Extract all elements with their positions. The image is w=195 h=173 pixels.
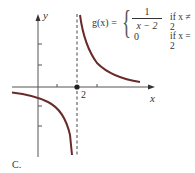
caption: C. xyxy=(12,159,21,170)
y-axis-label: y xyxy=(43,9,48,21)
condition-2: if x = 2 xyxy=(170,31,195,51)
function-name: g(x) = xyxy=(92,17,117,28)
denominator: x − 2 xyxy=(132,20,162,31)
point-2-0 xyxy=(74,84,79,89)
x-tick-label-2: 2 xyxy=(81,89,86,100)
brace-icon: { xyxy=(122,5,131,39)
numerator: 1 xyxy=(132,6,162,17)
x-axis-arrow-icon xyxy=(148,85,155,90)
fraction: 1 x − 2 xyxy=(132,6,162,31)
left-branch-curve xyxy=(12,93,72,156)
y-axis-arrow-icon xyxy=(36,14,41,21)
condition-1: if x ≠ 2 xyxy=(170,12,195,32)
fraction-bar xyxy=(132,18,162,19)
piecewise-formula: g(x) = { 1 x − 2 0 if x ≠ 2 if x = 2 xyxy=(92,5,195,45)
zero-value: 0 xyxy=(134,31,139,42)
x-axis-label: x xyxy=(150,92,155,104)
